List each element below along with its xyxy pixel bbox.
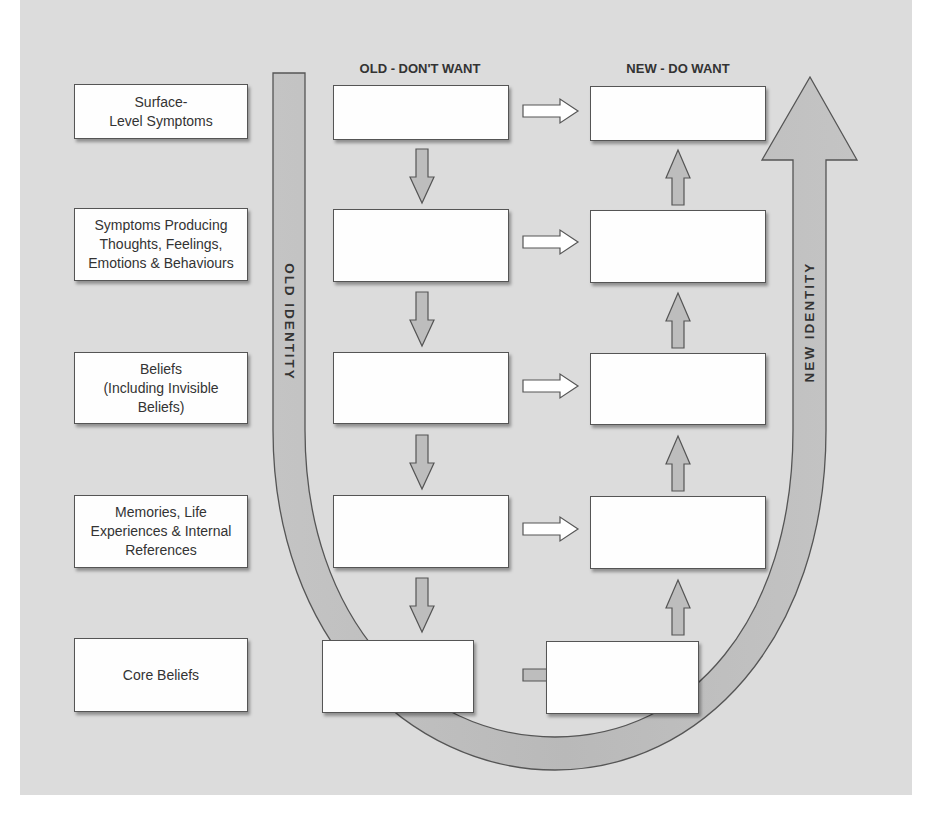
up-arrow-icon bbox=[666, 293, 690, 348]
new-entry-box[interactable] bbox=[590, 210, 766, 283]
right-arrow-icon bbox=[523, 230, 578, 254]
level-label-box: Beliefs (Including Invisible Beliefs) bbox=[74, 352, 248, 424]
old-entry-box[interactable] bbox=[333, 209, 509, 282]
level-label: Surface- Level Symptoms bbox=[109, 93, 212, 131]
right-arrow-icon bbox=[523, 374, 578, 398]
old-entry-box[interactable] bbox=[333, 85, 509, 140]
level-label: Symptoms Producing Thoughts, Feelings, E… bbox=[88, 216, 234, 273]
level-label-box: Core Beliefs bbox=[74, 638, 248, 712]
down-arrow-icon bbox=[410, 292, 434, 346]
down-arrow-icon bbox=[410, 435, 434, 489]
new-column-header: NEW - DO WANT bbox=[588, 61, 768, 76]
level-label-box: Surface- Level Symptoms bbox=[74, 84, 248, 139]
old-entry-box[interactable] bbox=[322, 640, 474, 713]
level-label: Core Beliefs bbox=[123, 666, 199, 685]
up-arrow-icon bbox=[666, 436, 690, 491]
down-arrow-icon bbox=[410, 578, 434, 632]
up-arrow-icon bbox=[666, 150, 690, 205]
new-entry-box[interactable] bbox=[590, 86, 766, 141]
up-arrow-icon bbox=[666, 580, 690, 635]
right-arrows bbox=[523, 99, 578, 687]
old-entry-box[interactable] bbox=[333, 352, 509, 424]
old-column-header: OLD - DON'T WANT bbox=[330, 61, 510, 76]
new-entry-box[interactable] bbox=[590, 496, 766, 569]
new-entry-box[interactable] bbox=[590, 353, 766, 425]
old-identity-label: OLD IDENTITY bbox=[282, 263, 297, 381]
level-label-box: Memories, Life Experiences & Internal Re… bbox=[74, 495, 248, 568]
down-arrow-icon bbox=[410, 149, 434, 203]
new-identity-label: NEW IDENTITY bbox=[802, 262, 817, 383]
right-arrow-icon bbox=[523, 517, 578, 541]
old-entry-box[interactable] bbox=[333, 495, 509, 568]
level-label: Memories, Life Experiences & Internal Re… bbox=[91, 503, 232, 560]
level-label-box: Symptoms Producing Thoughts, Feelings, E… bbox=[74, 208, 248, 281]
right-arrow-icon bbox=[523, 99, 578, 123]
level-label: Beliefs (Including Invisible Beliefs) bbox=[103, 360, 218, 417]
new-entry-box[interactable] bbox=[546, 641, 699, 714]
